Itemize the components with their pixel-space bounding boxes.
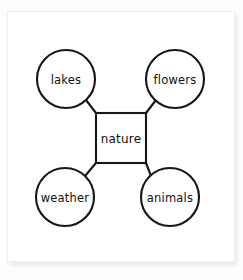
- connector-center-to-weather: [85, 163, 96, 176]
- diagram-canvas: lakes flowers nature weather animals: [0, 0, 243, 280]
- node-animals-label: animals: [147, 191, 193, 205]
- concept-map-diagram: lakes flowers nature weather animals: [0, 0, 243, 280]
- node-weather-label: weather: [41, 191, 90, 205]
- connector-center-to-animals: [146, 163, 151, 176]
- node-animals[interactable]: animals: [141, 168, 199, 226]
- connector-center-to-flowers: [146, 100, 156, 113]
- node-lakes-label: lakes: [51, 73, 82, 87]
- node-lakes[interactable]: lakes: [37, 50, 95, 108]
- node-weather[interactable]: weather: [36, 168, 94, 226]
- node-flowers[interactable]: flowers: [146, 50, 204, 108]
- node-center-nature[interactable]: nature: [96, 113, 146, 163]
- node-flowers-label: flowers: [154, 73, 197, 87]
- node-center-label: nature: [101, 132, 142, 146]
- connector-center-to-lakes: [86, 100, 96, 113]
